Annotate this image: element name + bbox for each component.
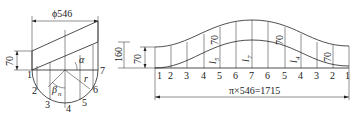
diameter-label: ϕ546 [52, 8, 72, 19]
svg-text:6: 6 [233, 70, 238, 81]
dim-70-a: 70 [209, 35, 220, 45]
svg-text:5: 5 [213, 57, 221, 61]
point-5: 5 [82, 97, 87, 108]
svg-text:3: 3 [314, 70, 319, 81]
height-70-dev-label: 70 [132, 54, 143, 64]
svg-text:6: 6 [265, 70, 270, 81]
svg-text:3: 3 [184, 70, 189, 81]
dim-70-c: 70 [322, 52, 333, 62]
svg-text:5: 5 [282, 70, 287, 81]
radius-label: r [84, 73, 88, 84]
point-2: 2 [32, 85, 37, 96]
svg-text:1: 1 [157, 70, 162, 81]
height-160-label: 160 [113, 47, 124, 62]
svg-text:7: 7 [249, 70, 254, 81]
point-1: 1 [27, 69, 32, 80]
svg-text:2: 2 [168, 70, 173, 81]
pipe-development-diagram: ϕ546 70 α β n r 1 [0, 0, 357, 116]
alpha-label: α [79, 54, 85, 65]
pipe-cross-section-view: ϕ546 70 α β n r 1 [4, 8, 105, 114]
svg-text:4: 4 [294, 56, 302, 60]
svg-text:4: 4 [201, 70, 206, 81]
height-70-label: 70 [4, 56, 15, 66]
svg-text:7: 7 [246, 55, 254, 59]
svg-text:4: 4 [298, 70, 303, 81]
total-length-label: π×546=1715 [229, 85, 280, 96]
point-4: 4 [66, 103, 71, 114]
beta-sub: n [58, 90, 62, 98]
point-7: 7 [100, 65, 105, 76]
svg-text:2: 2 [330, 70, 335, 81]
point-3: 3 [45, 99, 50, 110]
svg-text:5: 5 [217, 70, 222, 81]
point-6: 6 [93, 84, 98, 95]
point-labels: 1 2 3 4 5 6 7 6 5 4 3 2 1 [157, 70, 350, 81]
dim-70-b: 70 [274, 35, 285, 45]
unfolded-development-view: 160 70 70 70 70 l 5 l 7 l 4 1 2 3 4 5 [113, 20, 350, 100]
svg-text:1: 1 [345, 70, 350, 81]
beta-label: β [51, 84, 57, 95]
